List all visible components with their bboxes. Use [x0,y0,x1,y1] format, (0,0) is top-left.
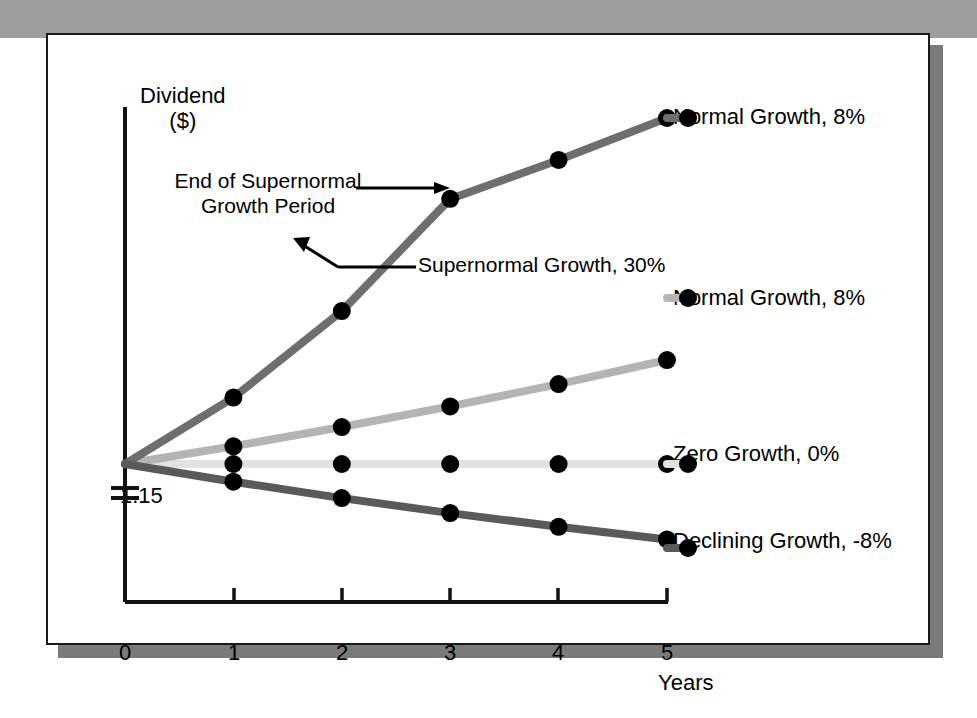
data-point-marker [224,389,242,407]
series-label-marker [679,539,697,557]
data-point-marker [658,351,676,369]
data-point-marker [333,418,351,436]
data-point-marker [441,504,459,522]
data-point-marker [441,455,459,473]
data-point-marker [441,397,459,415]
data-point-marker [333,302,351,320]
data-point-marker [224,455,242,473]
x-axis-title: Years [658,670,713,695]
data-point-marker [550,375,568,393]
series-markers-layer [224,109,676,548]
series-line-declining-growth [125,464,667,540]
chart-plot-area [48,35,932,647]
data-point-marker [550,151,568,169]
data-point-marker [333,455,351,473]
series-label-marker [679,455,697,473]
series-label-marker [679,109,697,127]
figure-frame: Dividend($) 1.15 0 1 2 3 4 5 Years End o… [46,33,930,645]
data-point-marker [224,473,242,491]
series-line-supernormal-growth [125,118,667,464]
data-point-marker [441,190,459,208]
data-point-marker [224,437,242,455]
data-point-marker [333,489,351,507]
data-point-marker [550,455,568,473]
series-label-markers [679,109,697,557]
series-label-marker [679,289,697,307]
annotation-arrow-end-of-supernormal [356,182,450,194]
data-point-marker [550,518,568,536]
